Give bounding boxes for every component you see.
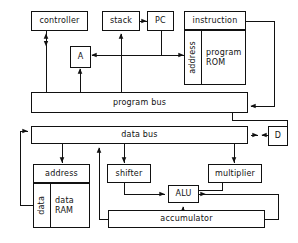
shifter-label: shifter — [116, 169, 143, 178]
program-bus-label: program bus — [113, 98, 166, 107]
node-d-register[interactable]: D — [268, 126, 288, 146]
node-controller[interactable]: controller — [31, 11, 88, 31]
controller-label: controller — [39, 16, 79, 25]
wire-shifter-to-alu — [124, 183, 165, 194]
node-pc[interactable]: PC — [147, 11, 174, 31]
processor-block-diagram: controller stack PC instruction address … — [0, 0, 298, 243]
program-rom-body: program ROM — [202, 31, 245, 84]
wire-program-bus-to-d-branch — [232, 113, 287, 126]
node-stack[interactable]: stack — [102, 11, 140, 31]
ram-line1: data — [55, 196, 74, 205]
wire-pc-to-a — [92, 31, 162, 55]
program-rom-address-label: address — [189, 41, 197, 74]
program-rom-line1: program — [206, 48, 242, 57]
node-data-ram[interactable]: data data RAM — [33, 183, 90, 228]
ram-body: data RAM — [51, 184, 89, 227]
instruction-label: instruction — [193, 16, 238, 25]
wire-instruction-to-program-bus — [246, 21, 274, 106]
ram-line2: RAM — [55, 206, 73, 215]
stack-label: stack — [110, 16, 132, 25]
wire-accumulator-to-data-bus — [99, 148, 108, 220]
node-program-bus[interactable]: program bus — [31, 92, 248, 113]
node-accumulator[interactable]: accumulator — [108, 210, 265, 228]
ram-address-label: address — [45, 169, 78, 178]
node-a-register[interactable]: A — [70, 46, 91, 68]
program-rom-address-port: address — [185, 31, 202, 84]
accumulator-label: accumulator — [160, 214, 212, 223]
node-shifter[interactable]: shifter — [107, 164, 151, 183]
data-bus-label: data bus — [121, 130, 157, 139]
ram-data-port-label: data — [38, 196, 46, 215]
multiplier-label: multiplier — [215, 169, 255, 178]
node-instruction[interactable]: instruction — [184, 11, 246, 30]
ram-data-port: data — [34, 184, 51, 227]
node-data-bus[interactable]: data bus — [31, 126, 248, 144]
d-register-label: D — [275, 131, 281, 140]
node-program-rom[interactable]: address program ROM — [184, 30, 246, 85]
a-register-label: A — [78, 52, 84, 61]
program-rom-line2: ROM — [206, 58, 225, 67]
alu-label: ALU — [176, 189, 192, 198]
pc-label: PC — [155, 16, 166, 25]
node-alu[interactable]: ALU — [168, 185, 199, 203]
node-multiplier[interactable]: multiplier — [208, 164, 262, 183]
node-ram-address[interactable]: address — [33, 164, 90, 183]
